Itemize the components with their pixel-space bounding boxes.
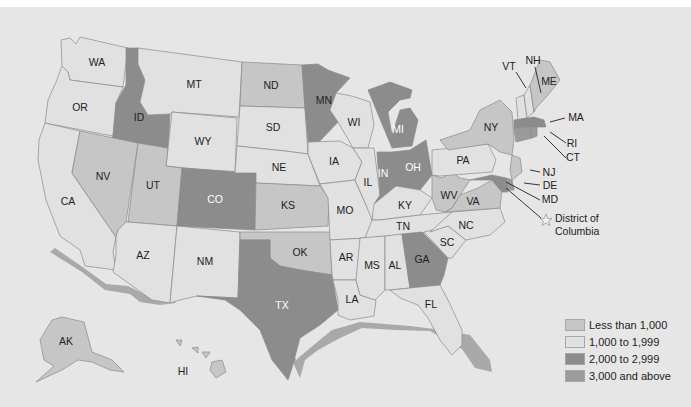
state-label-ct: CT xyxy=(566,151,581,163)
state-label-ri: RI xyxy=(567,137,578,149)
state-label-nm: NM xyxy=(197,255,213,267)
state-label-mn: MN xyxy=(316,94,332,106)
state-label-nh: NH xyxy=(525,54,540,66)
legend-swatch xyxy=(565,336,585,348)
legend-swatch xyxy=(565,353,585,365)
state-label-sd: SD xyxy=(266,121,281,133)
legend-label: 2,000 to 2,999 xyxy=(589,353,659,365)
state-label-mo: MO xyxy=(337,204,354,216)
legend-item: 3,000 and above xyxy=(565,368,671,384)
state-label-de: DE xyxy=(543,179,558,191)
district-of-columbia: District of Columbia xyxy=(540,212,600,237)
state-label-co: CO xyxy=(207,193,223,205)
star-icon xyxy=(540,214,552,226)
state-label-az: AZ xyxy=(136,249,150,261)
state-label-ia: IA xyxy=(329,155,339,167)
state-label-la: LA xyxy=(346,293,359,305)
state-label-fl: FL xyxy=(425,298,437,310)
state-label-wv: WV xyxy=(441,189,458,201)
state-label-ak: AK xyxy=(59,335,73,347)
state-label-ut: UT xyxy=(146,179,161,191)
state-label-vt: VT xyxy=(502,60,516,72)
state-label-nv: NV xyxy=(96,170,111,182)
dc-label-line1: District of xyxy=(555,212,599,224)
state-label-oh: OH xyxy=(405,161,421,173)
legend-label: Less than 1,000 xyxy=(589,319,667,331)
state-label-ks: KS xyxy=(281,199,295,211)
legend-item: 2,000 to 2,999 xyxy=(565,351,671,367)
state-ct xyxy=(514,127,532,142)
state-label-ny: NY xyxy=(484,121,499,133)
state-ak xyxy=(36,317,124,382)
state-nj xyxy=(510,155,522,180)
state-fl xyxy=(390,285,462,355)
state-label-tx: TX xyxy=(275,299,288,311)
state-label-va: VA xyxy=(466,195,479,207)
state-label-in: IN xyxy=(378,167,389,179)
state-label-ok: OK xyxy=(292,246,307,258)
leader-vt xyxy=(516,72,526,88)
dc-label-line2: Columbia xyxy=(555,225,600,237)
legend-label: 3,000 and above xyxy=(589,370,671,382)
state-label-wa: WA xyxy=(89,56,106,68)
state-label-nj: NJ xyxy=(543,166,556,178)
state-label-ne: NE xyxy=(272,161,287,173)
leader-ri xyxy=(550,132,566,143)
legend-item: 1,000 to 1,999 xyxy=(565,334,671,350)
state-label-sc: SC xyxy=(440,236,455,248)
legend-swatch xyxy=(565,319,585,331)
legend-swatch xyxy=(565,370,585,382)
state-label-ga: GA xyxy=(414,253,429,265)
state-label-al: AL xyxy=(389,259,402,271)
legend-label: 1,000 to 1,999 xyxy=(589,336,659,348)
state-mi xyxy=(368,82,418,148)
state-label-or: OR xyxy=(72,101,88,113)
legend: Less than 1,000 1,000 to 1,999 2,000 to … xyxy=(565,317,671,385)
leader-de xyxy=(524,183,540,185)
state-label-id: ID xyxy=(134,111,145,123)
legend-item: Less than 1,000 xyxy=(565,317,671,333)
state-label-ca: CA xyxy=(61,195,76,207)
leader-ct xyxy=(544,136,566,158)
state-label-ar: AR xyxy=(339,251,354,263)
state-label-md: MD xyxy=(542,193,559,205)
leader-dc xyxy=(506,188,541,218)
state-label-tn: TN xyxy=(396,220,410,232)
state-label-ky: KY xyxy=(398,199,412,211)
state-label-il: IL xyxy=(364,176,373,188)
state-label-wy: WY xyxy=(195,135,212,147)
state-label-ma: MA xyxy=(568,111,584,123)
state-label-hi: HI xyxy=(178,365,189,377)
state-label-mi: MI xyxy=(392,123,404,135)
leader-nj xyxy=(530,170,540,172)
state-label-wi: WI xyxy=(348,116,361,128)
state-label-nd: ND xyxy=(263,79,279,91)
state-label-pa: PA xyxy=(456,154,469,166)
state-label-mt: MT xyxy=(186,78,202,90)
state-label-nc: NC xyxy=(458,219,474,231)
leader-ma xyxy=(550,118,565,122)
state-label-me: ME xyxy=(541,75,557,87)
state-label-ms: MS xyxy=(364,259,380,271)
